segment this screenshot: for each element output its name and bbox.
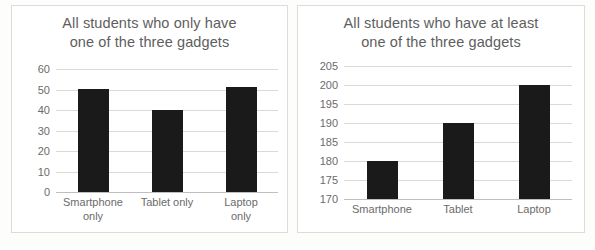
x-axis-label: Laptop only <box>218 196 264 223</box>
figure-page: All students who only have one of the th… <box>0 0 595 250</box>
bar <box>367 161 398 199</box>
chart-title-left-line2: one of the three gadgets <box>12 33 287 52</box>
x-axis-label: Tablet only <box>141 196 194 210</box>
chart-title-left-line1: All students who only have <box>12 14 287 33</box>
plot-area-right: 205200195190185180175170 <box>344 66 572 199</box>
bar <box>226 87 257 192</box>
y-axis-tick-label: 195 <box>320 99 338 110</box>
y-axis-tick-label: 10 <box>38 167 50 178</box>
bar <box>519 85 550 199</box>
gridline-205 <box>344 66 572 67</box>
y-axis-tick-label: 205 <box>320 61 338 72</box>
x-axis-label: Tablet <box>443 203 472 217</box>
gridline-60 <box>56 69 278 70</box>
y-axis-tick-label: 190 <box>320 118 338 129</box>
x-axis-label: Smartphone <box>352 203 412 217</box>
bar <box>152 110 183 192</box>
chart-at-least-one-gadget: All students who have at least one of th… <box>297 5 585 233</box>
y-axis-tick-label: 180 <box>320 156 338 167</box>
x-axis-label: Smartphone only <box>63 196 123 223</box>
y-axis-tick-label: 40 <box>38 105 50 116</box>
bar <box>443 123 474 199</box>
x-axis-label: Laptop <box>517 203 551 217</box>
chart-title-right: All students who have at least one of th… <box>298 14 584 52</box>
gridline-0 <box>56 192 278 193</box>
chart-title-right-line1: All students who have at least <box>298 14 584 33</box>
chart-title-right-line2: one of the three gadgets <box>298 33 584 52</box>
y-axis-tick-label: 170 <box>320 194 338 205</box>
charts-row: All students who only have one of the th… <box>0 0 595 250</box>
y-axis-tick-label: 0 <box>44 187 50 198</box>
plot-area-left: 6050403020100 <box>56 69 278 192</box>
y-axis-tick-label: 50 <box>38 85 50 96</box>
chart-only-one-gadget: All students who only have one of the th… <box>11 5 288 233</box>
bar <box>78 89 109 192</box>
chart-title-left: All students who only have one of the th… <box>12 14 287 52</box>
y-axis-tick-label: 60 <box>38 64 50 75</box>
y-axis-tick-label: 30 <box>38 126 50 137</box>
gridline-170 <box>344 199 572 200</box>
y-axis-tick-label: 200 <box>320 80 338 91</box>
y-axis-tick-label: 20 <box>38 146 50 157</box>
y-axis-tick-label: 185 <box>320 137 338 148</box>
y-axis-tick-label: 175 <box>320 175 338 186</box>
